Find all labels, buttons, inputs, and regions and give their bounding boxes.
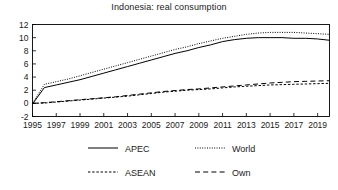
legend-label-world: World: [232, 144, 255, 154]
legend-label-apec: APEC: [125, 144, 150, 154]
x-tick-label: 2015: [261, 120, 280, 130]
x-tick-label: 2013: [237, 120, 256, 130]
chart-legend: APECWorldASEANOwn: [88, 144, 255, 178]
x-tick-label: 1995: [23, 120, 42, 130]
x-tick-label: 1997: [47, 120, 66, 130]
y-tick-label: 2: [24, 85, 29, 95]
x-tick-label: 2009: [189, 120, 208, 130]
y-tick-label: 4: [24, 72, 29, 82]
x-tick-label: 2007: [166, 120, 185, 130]
y-tick-label: 0: [24, 98, 29, 108]
y-tick-label: 6: [24, 59, 29, 69]
legend-label-own: Own: [232, 168, 251, 178]
y-tick-label: 12: [19, 20, 29, 30]
x-tick-label: 2003: [118, 120, 137, 130]
series-line-apec: [33, 38, 330, 104]
y-tick-label: 8: [24, 46, 29, 56]
legend-label-asean: ASEAN: [125, 168, 156, 178]
x-tick-label: 2005: [142, 120, 161, 130]
axis-tickmarks: [33, 25, 318, 117]
series-line-world: [33, 32, 330, 103]
x-tick-label: 2001: [94, 120, 113, 130]
x-tick-label: 2017: [284, 120, 303, 130]
y-tick-label: 10: [19, 33, 29, 43]
x-tick-label: 1999: [71, 120, 90, 130]
y-axis-tick-labels: -2024681012: [19, 20, 29, 122]
x-axis-tick-labels: 1995199719992001200320052007200920112013…: [23, 120, 327, 130]
x-tick-label: 2019: [308, 120, 327, 130]
data-series-group: [33, 32, 330, 104]
x-tick-label: 2011: [213, 120, 232, 130]
chart-figure: Indonesia: real consumption -2024681012 …: [0, 0, 338, 190]
chart-plot-area: -2024681012 1995199719992001200320052007…: [0, 0, 338, 190]
